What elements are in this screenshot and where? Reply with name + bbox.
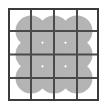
grid-circle-pattern-graphic [0,0,105,110]
pattern-figure [0,0,105,110]
